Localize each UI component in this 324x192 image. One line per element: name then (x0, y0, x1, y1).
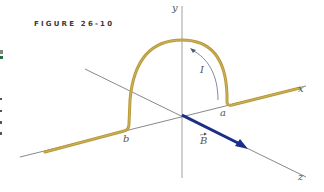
point-b-label: b (123, 133, 129, 144)
x-axis-label: x (298, 83, 304, 94)
y-axis-label: y (171, 2, 178, 13)
magnetic-field-vector (182, 115, 240, 144)
current-label: I (199, 64, 205, 75)
current-direction-arrow (192, 50, 218, 100)
current-wire (45, 40, 300, 152)
magnetic-field-arrowhead (235, 139, 248, 149)
wire-diagram: y x z a b I B (0, 0, 324, 192)
z-axis-label: z (297, 171, 304, 182)
current-arrowhead (190, 48, 196, 53)
point-a-label: a (220, 107, 226, 118)
field-label: B (199, 135, 207, 146)
